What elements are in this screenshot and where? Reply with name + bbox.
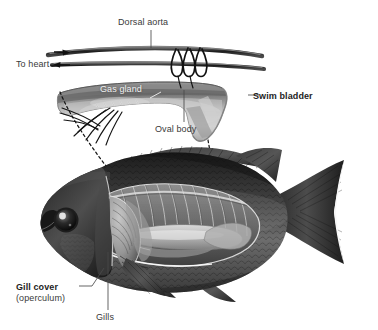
label-gas-gland: Gas gland [100, 84, 142, 95]
label-oval-body: Oval body [155, 124, 196, 135]
label-to-heart: To heart [16, 59, 49, 70]
label-swim-bladder: Swim bladder [253, 91, 313, 102]
fish-anatomy-figure [0, 0, 378, 330]
label-gill-cover: Gill cover [16, 282, 58, 293]
label-gills: Gills [96, 312, 114, 323]
fish-eye [54, 208, 79, 233]
label-operculum: (operculum) [16, 293, 65, 304]
label-dorsal-aorta: Dorsal aorta [118, 17, 168, 28]
